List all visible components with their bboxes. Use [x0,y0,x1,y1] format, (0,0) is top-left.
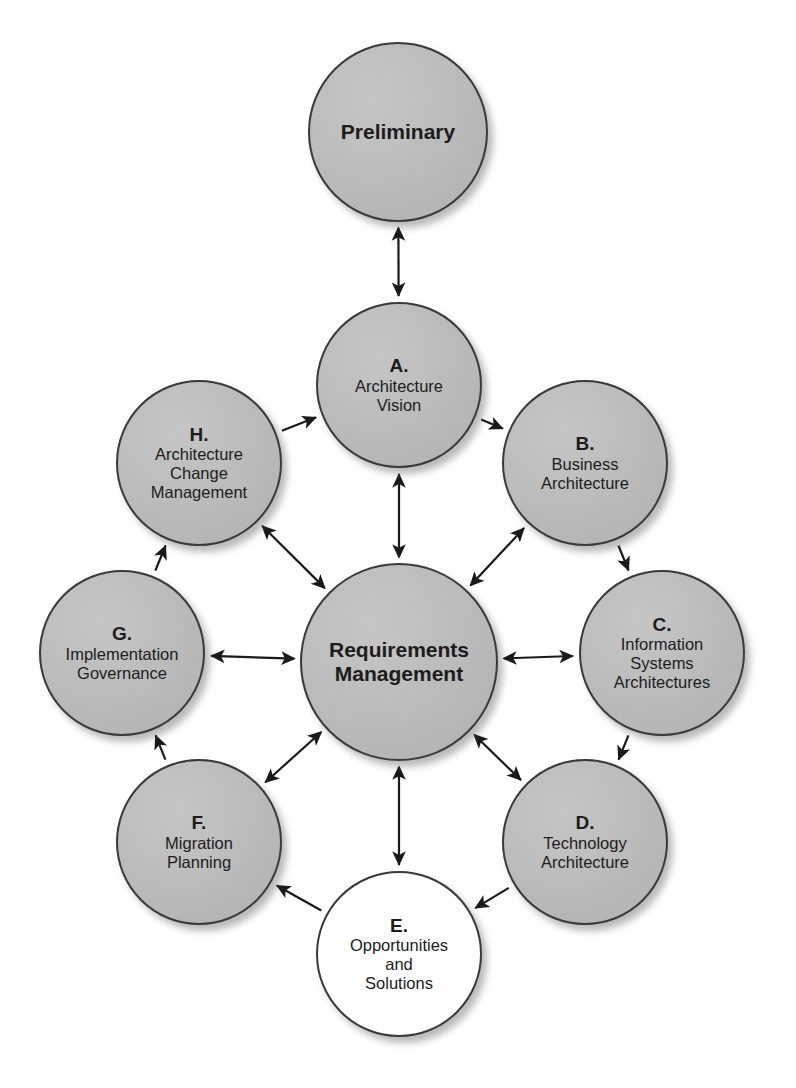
node-phase-c[interactable]: C.Information Systems Architectures [579,570,745,736]
connector-rm-to-d [475,735,522,780]
node-phase-h-label: Architecture Change Management [151,445,247,502]
node-phase-h-key: H. [190,424,209,445]
connector-rm-to-b [471,528,525,585]
connector-rm-to-f [265,732,321,782]
node-phase-e[interactable]: E.Opportunities and Solutions [316,871,482,1037]
connector-e-to-f [277,886,322,911]
node-phase-a[interactable]: A.Architecture Vision [316,302,482,468]
connector-g-to-h [155,546,165,571]
connector-rm-to-g [211,656,294,659]
node-phase-e-label: Opportunities and Solutions [350,936,448,993]
node-phase-a-key: A. [390,355,409,376]
node-phase-b-label: Business Architecture [541,455,629,493]
connector-rm-to-h [262,526,325,588]
adm-cycle-diagram: PreliminaryA.Architecture VisionB.Busine… [0,0,796,1088]
node-phase-e-key: E. [390,915,408,936]
connector-c-to-d [619,735,629,759]
connector-b-to-c [618,546,628,571]
node-phase-g-label: Implementation Governance [66,645,179,683]
node-phase-g-key: G. [112,623,132,644]
node-phase-b-key: B. [576,433,595,454]
connector-a-to-b [481,419,503,428]
connector-d-to-e [475,888,509,908]
node-phase-c-label: Information Systems Architectures [614,635,710,692]
node-phase-b[interactable]: B.Business Architecture [502,380,668,546]
connector-f-to-g [156,735,166,759]
connector-h-to-a [282,417,316,430]
node-phase-f[interactable]: F.Migration Planning [116,759,282,925]
node-phase-f-label: Migration Planning [165,834,233,872]
node-preliminary-label: Preliminary [341,120,455,144]
node-phase-c-key: C. [653,614,672,635]
connector-rm-to-c [504,656,573,658]
node-phase-h[interactable]: H.Architecture Change Management [116,380,282,546]
node-phase-d[interactable]: D.Technology Architecture [502,759,668,925]
node-phase-g[interactable]: G.Implementation Governance [39,570,205,736]
node-phase-f-key: F. [192,812,207,833]
node-phase-d-key: D. [576,812,595,833]
node-preliminary[interactable]: Preliminary [308,42,488,222]
node-phase-a-label: Architecture Vision [355,377,443,415]
node-requirements-management-label: Requirements Management [329,638,469,687]
node-phase-d-label: Technology Architecture [541,834,629,872]
node-requirements-management[interactable]: Requirements Management [300,563,498,761]
